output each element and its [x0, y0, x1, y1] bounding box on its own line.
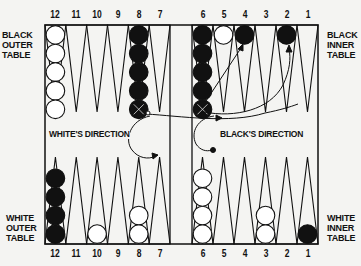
white-checker [129, 206, 148, 225]
black-checker [193, 44, 212, 63]
white-checker [46, 100, 65, 119]
top-point-triangle [149, 25, 170, 112]
white-checker [256, 225, 275, 244]
bottom-point-number: 10 [91, 248, 103, 259]
white-checker [193, 225, 212, 244]
bottom-point-number: 4 [239, 248, 251, 259]
white-checker [46, 81, 65, 100]
white-checker [46, 44, 65, 63]
black-checker [129, 63, 148, 82]
bottom-point-number: 7 [154, 248, 166, 259]
bottom-point-triangle [276, 157, 297, 244]
white-inner-table-label: WHITE INNER TABLE [327, 213, 361, 243]
bottom-point-number: 6 [197, 248, 209, 259]
white-checker [256, 206, 275, 225]
top-point-number: 11 [70, 9, 82, 20]
top-point-number: 5 [218, 9, 230, 20]
top-point-number: 8 [133, 9, 145, 20]
white-checker [193, 169, 212, 188]
bottom-point-triangle [108, 157, 129, 244]
top-point-number: 9 [112, 9, 124, 20]
top-point-number: 7 [154, 9, 166, 20]
bottom-point-number: 1 [302, 248, 314, 259]
white-checker [88, 225, 107, 244]
bottom-point-number: 8 [133, 248, 145, 259]
black-checker [129, 81, 148, 100]
bottom-point-number: 9 [112, 248, 124, 259]
bottom-point-number: 2 [281, 248, 293, 259]
black-outer-table-label: BLACK OUTER TABLE [2, 30, 46, 60]
black-checker [129, 44, 148, 63]
white-checker [46, 63, 65, 82]
top-point-triangle [87, 25, 108, 112]
bottom-point-triangle [149, 157, 170, 244]
top-point-number: 1 [302, 9, 314, 20]
top-point-number: 10 [91, 9, 103, 20]
top-point-triangle [297, 25, 318, 112]
top-point-number: 12 [49, 9, 61, 20]
bottom-point-triangle [234, 157, 255, 244]
black-checker [46, 188, 65, 207]
top-point-number: 3 [260, 9, 272, 20]
black-direction-label: BLACK'S DIRECTION [220, 129, 303, 139]
white-direction-label: WHITE'S DIRECTION [49, 129, 130, 139]
black-checker [298, 225, 317, 244]
black-checker [193, 63, 212, 82]
bottom-point-number: 11 [70, 248, 82, 259]
black-checker [46, 169, 65, 188]
black-checker [129, 26, 148, 45]
top-point-triangle [108, 25, 129, 112]
white-outer-table-label: WHITE OUTER TABLE [6, 213, 50, 243]
white-checker [193, 188, 212, 207]
bottom-point-triangle [213, 157, 234, 244]
white-checker [193, 206, 212, 225]
top-point-number: 6 [197, 9, 209, 20]
white-checker [46, 26, 65, 45]
black-inner-table-label: BLACK INNER TABLE [327, 30, 361, 60]
black-checker [277, 26, 296, 45]
white-checker [129, 225, 148, 244]
top-point-number: 2 [281, 9, 293, 20]
bottom-point-number: 5 [218, 248, 230, 259]
black-checker [235, 26, 254, 45]
top-point-number: 4 [239, 9, 251, 20]
black-checker [193, 26, 212, 45]
bottom-point-number: 3 [260, 248, 272, 259]
bottom-point-number: 12 [49, 248, 61, 259]
white-checker [214, 26, 233, 45]
top-point-triangle [66, 25, 87, 112]
bottom-point-triangle [66, 157, 87, 244]
top-point-triangle [255, 25, 276, 112]
